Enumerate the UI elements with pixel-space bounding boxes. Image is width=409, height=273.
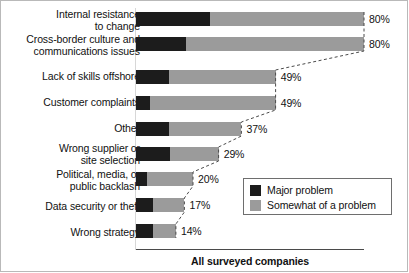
bar-value-label: 49% (281, 96, 302, 110)
bar-value-label: 17% (189, 198, 210, 212)
bar-segment-somewhat (210, 12, 364, 26)
bar-segment-major (136, 172, 147, 186)
bar-segment-major (136, 147, 170, 161)
x-axis-caption: All surveyed companies (136, 255, 364, 267)
chart-legend: Major problem Somewhat of a problem (243, 178, 392, 215)
legend-item-major: Major problem (250, 183, 391, 198)
bar-value-label: 14% (181, 224, 202, 238)
category-label: Customer complaints (43, 97, 140, 109)
bar-value-label: 49% (281, 70, 302, 84)
category-label: Data security or theft (45, 201, 140, 213)
category-label: Internal resistance to change (56, 9, 140, 32)
category-label: Cross-border culture and communications … (26, 34, 140, 57)
bar-value-label: 80% (369, 37, 390, 51)
bar-segment-major (136, 37, 186, 51)
bar-value-label: 20% (198, 172, 219, 186)
legend-swatch-icon (250, 185, 261, 196)
legend-item-somewhat: Somewhat of a problem (250, 198, 391, 213)
legend-label: Somewhat of a problem (267, 200, 376, 211)
category-label: Wrong strategy (70, 227, 140, 239)
bar-segment-somewhat (170, 147, 218, 161)
bar-segment-major (136, 12, 210, 26)
category-label: Wrong supplier or site selection (59, 143, 140, 166)
bar-segment-major (136, 96, 150, 110)
bar-value-label: 80% (369, 12, 390, 26)
bar-segment-somewhat (153, 224, 176, 238)
bar-segment-major (136, 122, 169, 136)
legend-label: Major problem (267, 185, 333, 196)
stacked-bar-chart: Internal resistance to change 80% Cross-… (0, 0, 409, 273)
bar-segment-somewhat (147, 172, 193, 186)
bar-value-label: 37% (246, 122, 267, 136)
bar-segment-somewhat (169, 122, 242, 136)
legend-swatch-icon (250, 200, 261, 211)
category-label: Political, media, or public backlash (56, 169, 140, 192)
bar-segment-somewhat (169, 70, 276, 84)
bar-segment-somewhat (150, 96, 275, 110)
x-axis-line (136, 249, 364, 250)
bar-value-label: 29% (224, 147, 245, 161)
bar-segment-somewhat (153, 198, 184, 212)
category-label: Lack of skills offshore (42, 71, 140, 83)
bar-segment-somewhat (186, 37, 364, 51)
bar-segment-major (136, 70, 169, 84)
bar-segment-major (136, 198, 153, 212)
bar-segment-major (136, 224, 153, 238)
